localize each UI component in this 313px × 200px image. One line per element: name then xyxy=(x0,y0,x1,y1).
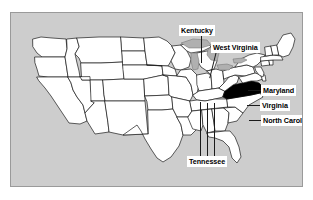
state-montana xyxy=(75,37,123,63)
state-idaho xyxy=(65,38,80,77)
label-west-virginia[interactable]: West Virginia xyxy=(211,42,260,53)
leader-line-tennessee-b xyxy=(207,103,208,156)
leader-line-tennessee-c xyxy=(214,103,215,156)
state-south-dakota xyxy=(122,51,147,65)
state-washington xyxy=(33,37,67,57)
state-new-mexico xyxy=(105,101,148,135)
state-north-dakota xyxy=(121,37,145,51)
state-oklahoma xyxy=(145,95,173,110)
state-rhode-island xyxy=(269,60,273,65)
leader-line-kentucky xyxy=(201,35,202,63)
state-maine xyxy=(277,33,295,57)
label-maryland[interactable]: Maryland xyxy=(261,85,296,96)
label-virginia[interactable]: Virginia xyxy=(260,100,290,111)
leader-line-virginia xyxy=(247,105,261,106)
leader-line-tennessee-a xyxy=(200,102,201,156)
state-oregon xyxy=(35,57,68,77)
label-north-carolina[interactable]: North Carolina xyxy=(261,115,303,126)
map-figure: Kentucky West Virginia Maryland Virginia… xyxy=(0,0,313,200)
leader-line-maryland xyxy=(248,90,262,91)
state-colorado xyxy=(103,79,145,101)
state-kansas xyxy=(144,75,169,96)
map-panel: Kentucky West Virginia Maryland Virginia… xyxy=(10,12,303,187)
state-minnesota xyxy=(144,37,175,66)
label-kentucky[interactable]: Kentucky xyxy=(179,25,215,36)
lake-michigan xyxy=(191,53,199,70)
label-tennessee[interactable]: Tennessee xyxy=(187,156,227,167)
